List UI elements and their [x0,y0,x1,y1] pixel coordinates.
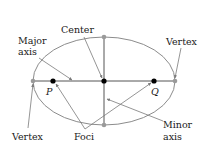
focus-p-point [50,78,55,83]
center-point [101,78,106,83]
co-vertex-top-point [102,35,107,40]
vertex-left-pointer [28,84,33,128]
foci-label: Foci [74,131,94,142]
center-label: Center [61,24,94,35]
center-pointer [84,37,102,78]
focus-q-label: Q [151,86,159,97]
major-axis-pointer [39,58,72,80]
minor-axis-pointer [107,99,163,121]
minor-axis-label-line1: Minor [163,119,193,130]
vertex-left-label: Vertex [11,131,44,142]
focus-p-label: P [45,86,53,97]
ellipse-diagram: Center Major axis Vertex Vertex Foci Min… [0,0,205,146]
foci-pointer-p [56,84,85,129]
focus-q-point [151,78,156,83]
vertex-right-pointer [175,48,181,78]
major-axis-label-line2: axis [18,46,37,57]
co-vertex-bottom-point [102,123,107,128]
vertex-left-point [31,79,36,84]
minor-axis-label-line2: axis [163,131,182,142]
vertex-right-label: Vertex [165,36,198,47]
vertex-right-point [173,79,178,84]
foci-pointer-q [85,83,151,129]
major-axis-label-line1: Major [18,35,47,46]
